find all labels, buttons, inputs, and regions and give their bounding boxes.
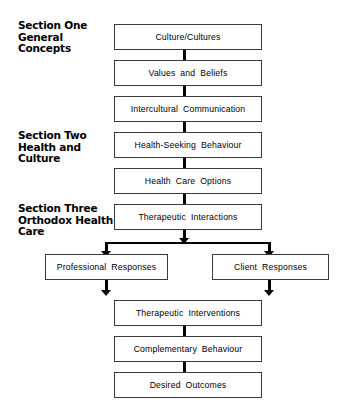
branch-rail-horizontal (105, 242, 269, 244)
node-complementary-behaviour: Complementary Behaviour (114, 336, 262, 362)
arrow-professional-to-interventions (100, 280, 112, 296)
node-professional-responses: Professional Responses (45, 254, 168, 280)
section-heading-two: Section Two Health and Culture (18, 130, 87, 165)
node-therapeutic-interactions: Therapeutic Interactions (114, 204, 262, 230)
arrow-client-to-interventions (263, 280, 275, 296)
node-therapeutic-interventions: Therapeutic Interventions (114, 300, 262, 326)
node-client-responses: Client Responses (212, 254, 329, 280)
section-heading-one: Section One General Concepts (18, 20, 87, 55)
node-intercultural-communication: Intercultural Communication (114, 96, 262, 122)
section-heading-three: Section Three Orthodox Health Care (18, 203, 113, 238)
flowchart-figure: Section One General Concepts Section Two… (0, 0, 344, 414)
node-culture-cultures: Culture/Cultures (114, 24, 262, 50)
node-health-seeking-behaviour: Health-Seeking Behaviour (114, 132, 262, 158)
node-values-and-beliefs: Values and Beliefs (114, 60, 262, 86)
node-desired-outcomes: Desired Outcomes (114, 372, 262, 398)
node-health-care-options: Health Care Options (114, 168, 262, 194)
